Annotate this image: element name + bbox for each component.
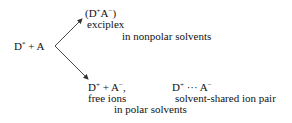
reactant: D* + A (14, 40, 45, 52)
ion-pair-label: solvent-shared ion pair (175, 92, 276, 104)
arrow-up (55, 19, 82, 46)
nonpolar-condition: in nonpolar solvents (122, 30, 211, 42)
polar-condition: in polar solvents (114, 103, 187, 115)
arrow-down (55, 46, 88, 79)
exciplex-label: exciplex (87, 18, 124, 30)
